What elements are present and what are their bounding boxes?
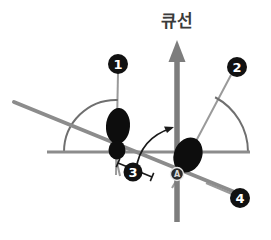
callout-2-number: 2 — [232, 60, 241, 75]
axis-title-label: 큐선 — [161, 11, 193, 31]
point-marker-a-group: A — [171, 168, 184, 181]
callout-4-number: 4 — [235, 191, 244, 206]
point-a-label: A — [174, 170, 181, 179]
blob-left-lower — [109, 141, 126, 160]
canvas-background — [0, 0, 271, 240]
diagram-figure: A 1 2 3 4 큐선 — [0, 0, 271, 240]
diagram-canvas: A 1 2 3 4 큐선 — [0, 0, 271, 240]
callout-1-number: 1 — [113, 57, 122, 72]
callout-3-number: 3 — [128, 165, 137, 180]
